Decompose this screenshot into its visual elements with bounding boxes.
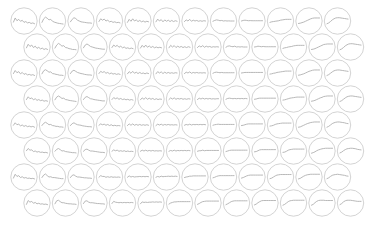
sparkline-glyph-grid (0, 0, 383, 229)
